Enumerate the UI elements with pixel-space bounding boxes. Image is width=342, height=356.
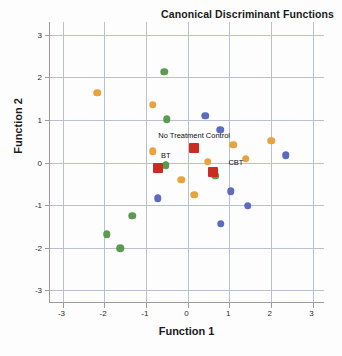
x-tick-label: -1 [141, 309, 148, 318]
centroid-label-cbt: CBT [228, 157, 243, 166]
y-axis-title: Function 2 [12, 56, 24, 196]
chart-figure: Canonical Discriminant Functions No Trea… [0, 0, 342, 356]
y-tick-label: 2 [38, 73, 42, 82]
centroid-label-no-treatment-control: No Treatment Control [158, 130, 230, 139]
x-tick-label: -2 [100, 309, 107, 318]
y-tick-label: -1 [35, 201, 42, 210]
x-tick-label: 2 [268, 309, 272, 318]
x-tick-label: 0 [184, 309, 188, 318]
plot-area: No Treatment ControlBTCBT [49, 22, 324, 303]
x-axis-tick-labels: -3-2-10123 [49, 303, 324, 325]
y-tick-label: 3 [38, 30, 42, 39]
x-tick-label: 3 [309, 309, 313, 318]
x-tick-label: 1 [226, 309, 230, 318]
y-tick-label: -3 [35, 286, 42, 295]
annotations-layer: No Treatment ControlBTCBT [50, 22, 324, 302]
x-axis-title: Function 1 [49, 325, 324, 337]
chart-title: Canonical Discriminant Functions [0, 8, 334, 20]
y-tick-label: 1 [38, 115, 42, 124]
centroid-label-bt: BT [161, 150, 171, 159]
x-tick-label: -3 [58, 309, 65, 318]
y-tick-label: -2 [35, 243, 42, 252]
y-axis-tick-labels: -3-2-10123 [0, 22, 49, 303]
y-tick-label: 0 [38, 158, 42, 167]
